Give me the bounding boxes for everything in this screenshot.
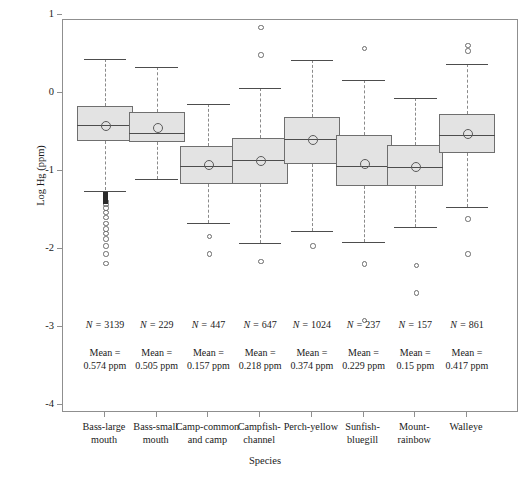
annotation-n-prefix: N = — [243, 319, 261, 330]
whisker-lower — [467, 153, 468, 207]
whisker-cap-lower — [291, 231, 334, 232]
whisker-cap-upper — [239, 88, 282, 89]
x-tick-mark — [363, 412, 364, 417]
whisker-cap-upper — [446, 64, 489, 65]
y-axis-tick: -4 — [0, 404, 62, 405]
whisker-cap-lower — [135, 179, 178, 180]
whisker-upper — [260, 88, 261, 138]
whisker-lower — [157, 142, 158, 179]
outlier-point — [103, 261, 108, 266]
whisker-upper — [105, 59, 106, 107]
outlier-point — [103, 251, 108, 256]
annotation-n-prefix: N = — [140, 319, 158, 330]
annotation-mean-value: 0.417 ppm — [425, 359, 509, 372]
y-tick-label: 1 — [49, 6, 54, 22]
whisker-cap-upper — [394, 98, 437, 99]
whisker-cap-lower — [394, 227, 437, 228]
annotation-n: N = 861 — [425, 319, 509, 330]
whisker-upper — [415, 98, 416, 146]
outlier-point — [465, 216, 470, 221]
annotation-n-prefix: N = — [86, 319, 104, 330]
annotation-n-prefix: N = — [192, 319, 210, 330]
annotation-n-prefix: N = — [293, 319, 311, 330]
outlier-point — [310, 243, 315, 248]
y-tick-label: -1 — [45, 162, 54, 178]
y-axis-tick: 1 — [0, 14, 62, 15]
annotation-n-prefix: N = — [347, 319, 365, 330]
whisker-cap-upper — [291, 60, 334, 61]
whisker-cap-lower — [187, 223, 230, 224]
whisker-lower — [260, 184, 261, 243]
whisker-lower — [312, 164, 313, 231]
x-tick-mark — [259, 412, 260, 417]
outlier-point — [465, 251, 470, 256]
mean-marker — [308, 135, 318, 145]
whisker-upper — [467, 64, 468, 114]
outlier-point — [103, 215, 108, 220]
whisker-cap-upper — [342, 80, 385, 81]
outlier-point — [258, 25, 263, 30]
annotation-n-prefix: N = — [399, 319, 417, 330]
y-tick-label: -4 — [45, 396, 54, 412]
outlier-point — [103, 236, 108, 241]
chart-root: Log Hg (ppm) 10-1-2-3-4 N = 3139Mean =0.… — [0, 0, 530, 477]
mean-marker — [360, 159, 370, 169]
whisker-upper — [312, 60, 313, 117]
x-category-label: Walleye — [424, 421, 508, 434]
x-category-label-line: channel — [217, 434, 301, 447]
x-tick-mark — [466, 412, 467, 417]
whisker-upper — [157, 67, 158, 111]
outlier-point — [414, 263, 419, 268]
whisker-cap-upper — [84, 59, 127, 60]
annotation-mean-label: Mean = — [425, 346, 509, 359]
whisker-upper — [208, 104, 209, 146]
whisker-lower — [208, 184, 209, 223]
annotation-n-prefix: N = — [450, 319, 468, 330]
y-tick-mark — [57, 14, 62, 15]
whisker-cap-lower — [342, 242, 385, 243]
whisker-cap-upper — [135, 67, 178, 68]
y-axis-tick: -3 — [0, 326, 62, 327]
whisker-lower — [364, 186, 365, 242]
y-axis-tick: -2 — [0, 248, 62, 249]
outlier-point — [207, 251, 212, 256]
y-axis-tick: -1 — [0, 170, 62, 171]
outlier-point — [362, 261, 367, 266]
whisker-lower — [105, 141, 106, 191]
outlier-point — [258, 52, 263, 57]
x-category-label-line: Walleye — [424, 421, 508, 434]
x-tick-mark — [156, 412, 157, 417]
y-tick-label: -3 — [45, 318, 54, 334]
whisker-cap-upper — [187, 104, 230, 105]
outlier-point — [414, 290, 419, 295]
whisker-upper — [364, 80, 365, 135]
whisker-cap-lower — [446, 207, 489, 208]
x-tick-mark — [104, 412, 105, 417]
outlier-point — [103, 243, 108, 248]
y-axis-title: Log Hg (ppm) — [35, 116, 46, 236]
outlier-point — [207, 234, 212, 239]
outlier-point — [465, 48, 470, 53]
whisker-cap-lower — [239, 243, 282, 244]
outlier-point — [362, 46, 367, 51]
y-axis-tick: 0 — [0, 92, 62, 93]
y-tick-label: -2 — [45, 240, 54, 256]
annotation-mean: Mean =0.417 ppm — [425, 346, 509, 372]
whisker-lower — [415, 186, 416, 227]
x-axis-title: Species — [0, 455, 530, 466]
plot-area: N = 3139Mean =0.574 ppmN = 229Mean =0.50… — [62, 19, 518, 412]
x-tick-mark — [414, 412, 415, 417]
mean-marker — [101, 121, 111, 131]
outlier-point — [258, 259, 263, 264]
mean-marker — [153, 123, 163, 133]
x-category-label-line: rainbow — [372, 434, 456, 447]
x-tick-mark — [207, 412, 208, 417]
x-tick-mark — [311, 412, 312, 417]
outlier-dense-band — [103, 192, 108, 204]
annotation-n-value: 861 — [469, 319, 484, 330]
y-tick-label: 0 — [49, 84, 54, 100]
